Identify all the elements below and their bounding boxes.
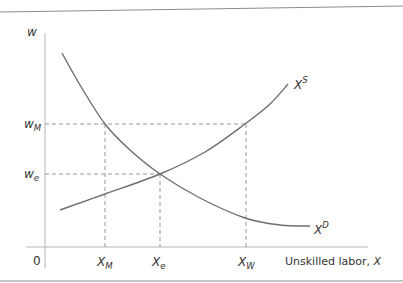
y-axis-label: w (27, 25, 37, 39)
labels: w0wMweXMXeXWUnskilled labor, XXSXD (24, 25, 382, 271)
x-tick-XW: XW (237, 255, 255, 271)
labor-market-diagram: w0wMweXMXeXWUnskilled labor, XXSXD (0, 0, 403, 283)
origin-label: 0 (33, 254, 41, 268)
y-tick-wM: wM (24, 117, 42, 133)
curves (60, 53, 310, 226)
x-tick-Xe: Xe (151, 255, 165, 271)
demand-curve (62, 53, 310, 226)
y-tick-we: we (24, 167, 39, 183)
x-axis-label: Unskilled labor, X (285, 255, 382, 268)
supply-curve-label: XS (293, 75, 308, 92)
demand-curve-label: XD (313, 220, 329, 237)
supply-curve (60, 84, 288, 210)
top-border (0, 6, 403, 12)
dashed-guides (45, 124, 246, 247)
x-tick-XM: XM (96, 255, 113, 271)
